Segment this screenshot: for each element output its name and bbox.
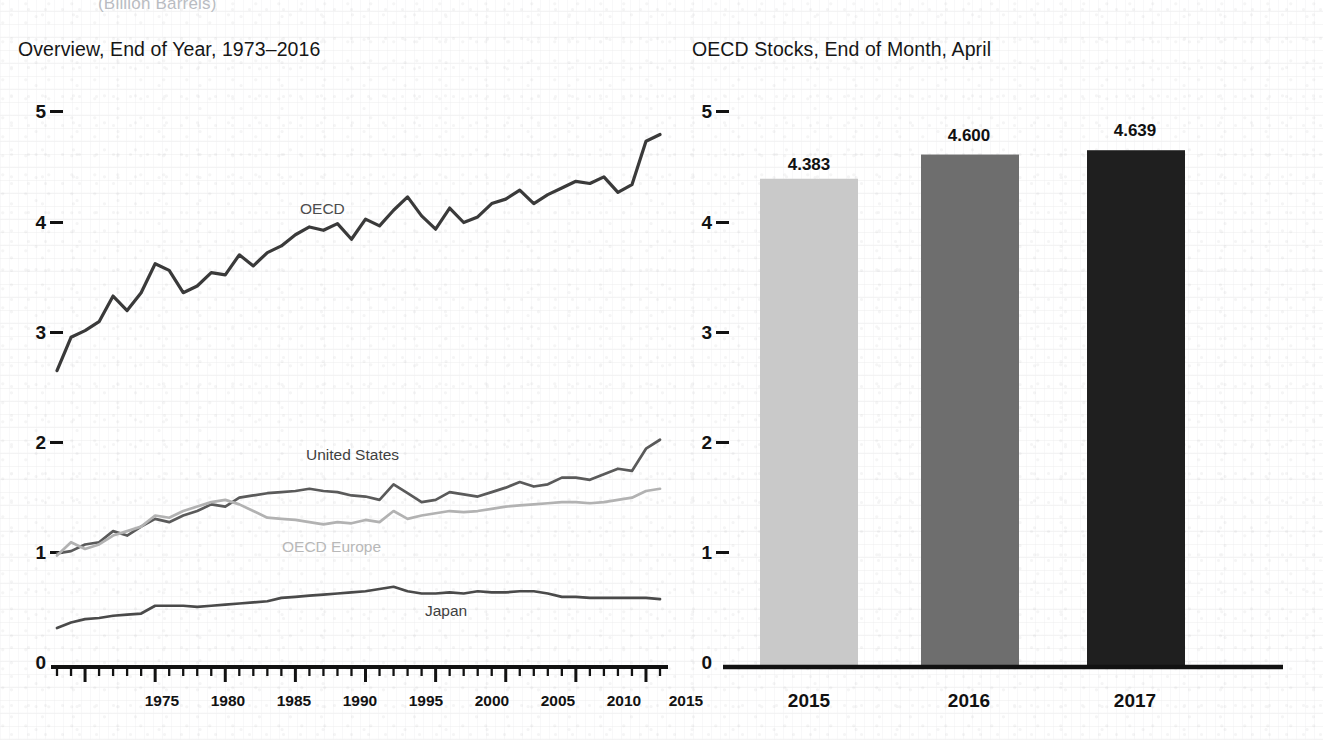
bar-value-2015: 4.383 — [749, 155, 869, 175]
bar-category-label-2016: 2016 — [899, 690, 1039, 712]
bar-chart-svg — [0, 0, 1323, 740]
bar-category-label-2017: 2017 — [1065, 690, 1205, 712]
bar-category-label-2015: 2015 — [739, 690, 879, 712]
bar-value-2017: 4.639 — [1075, 121, 1195, 141]
bar-value-2016: 4.600 — [909, 126, 1029, 146]
